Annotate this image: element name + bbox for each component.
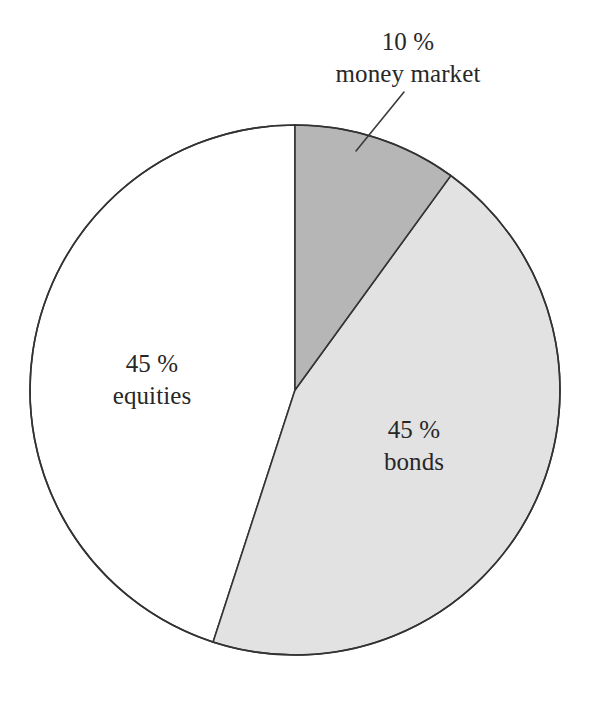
slice-label-money-market: 10 % money market <box>288 26 528 90</box>
money-market-percent: 10 % <box>288 26 528 58</box>
pie-chart-figure: 10 % money market 45 % equities 45 % bon… <box>0 0 589 702</box>
money-market-name: money market <box>288 58 528 90</box>
bonds-percent: 45 % <box>338 414 490 446</box>
bonds-name: bonds <box>338 446 490 478</box>
slice-label-equities: 45 % equities <box>72 348 232 412</box>
equities-name: equities <box>72 380 232 412</box>
slice-label-bonds: 45 % bonds <box>338 414 490 478</box>
equities-percent: 45 % <box>72 348 232 380</box>
